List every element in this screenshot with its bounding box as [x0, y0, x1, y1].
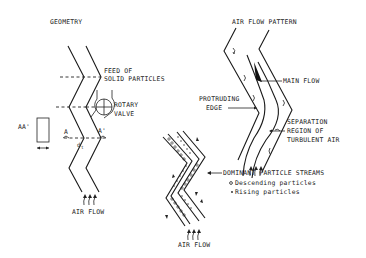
- particle-airflow-arrows-icon: [187, 229, 201, 240]
- feed-label: FEED OF: [104, 67, 132, 75]
- particle-airflow-label: AIR FLOW: [178, 241, 210, 249]
- particle-legend: Descending particles Rising particles: [230, 179, 316, 196]
- protruding-edge-label-2: EDGE: [206, 104, 222, 112]
- feed-label-2: SOLID PARTICLES: [104, 75, 165, 83]
- channel-left-wall: [68, 46, 84, 192]
- zigzag-classifier-diagram: GEOMETRY FEED OF SOLID PARTICLES ROTARY …: [0, 0, 366, 258]
- descending-legend-icon: [230, 182, 233, 185]
- main-flow-label: MAIN FLOW: [283, 77, 319, 85]
- rising-legend-icon: [231, 191, 233, 193]
- geometry-title: GEOMETRY: [50, 18, 82, 26]
- main-flow-arrowhead: [254, 62, 262, 82]
- channel-right-wall: [86, 46, 101, 192]
- cut-a-label: A: [64, 128, 68, 136]
- particle-streams-title: DOMINANT PARTICLE STREAMS: [223, 169, 324, 177]
- stream-arrows-icon: [165, 137, 203, 219]
- rising-legend-label: Rising particles: [235, 188, 300, 196]
- separation-label-3: TURBULENT AIR: [287, 136, 340, 144]
- rotary-valve-icon: [91, 90, 115, 118]
- particle-channel-left-wall: [163, 137, 187, 226]
- protruding-edge-label: PROTRUDING: [199, 95, 239, 103]
- air-flow-title: AIR FLOW PATTERN: [232, 18, 297, 26]
- valve-label-2: VALVE: [114, 110, 134, 118]
- svg-text:t: t: [81, 145, 84, 150]
- airflow-arrows-icon: [83, 194, 97, 205]
- descending-legend-label: Descending particles: [235, 179, 316, 187]
- main-flow-streamline-2: [243, 55, 265, 176]
- section-label: AA': [18, 123, 30, 131]
- airflow-left-wall: [224, 28, 259, 160]
- air-flow-pattern-panel: AIR FLOW PATTERN MAIN FLOW PROTRUDING ED: [199, 18, 340, 178]
- geometry-panel: GEOMETRY FEED OF SOLID PARTICLES ROTARY …: [18, 18, 165, 216]
- cut-a-prime-label: A': [98, 127, 106, 135]
- separation-label: SEPARATION: [287, 118, 327, 126]
- geometry-airflow-label: AIR FLOW: [72, 208, 104, 216]
- cross-section-rect: [37, 118, 49, 142]
- separation-label-2: REGION OF: [287, 127, 323, 135]
- valve-label: ROTARY: [114, 101, 138, 109]
